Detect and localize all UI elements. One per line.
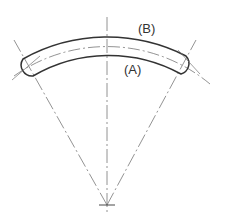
label-outer-b: (B) bbox=[138, 21, 155, 36]
left-end-tick bbox=[12, 56, 40, 80]
slot-outline bbox=[21, 37, 189, 76]
curved-slot-diagram: (B) (A) bbox=[0, 0, 227, 222]
left-radial-line bbox=[14, 40, 107, 205]
label-inner-a: (A) bbox=[124, 62, 141, 77]
right-radial-line bbox=[107, 40, 196, 205]
center-arc bbox=[14, 47, 210, 84]
